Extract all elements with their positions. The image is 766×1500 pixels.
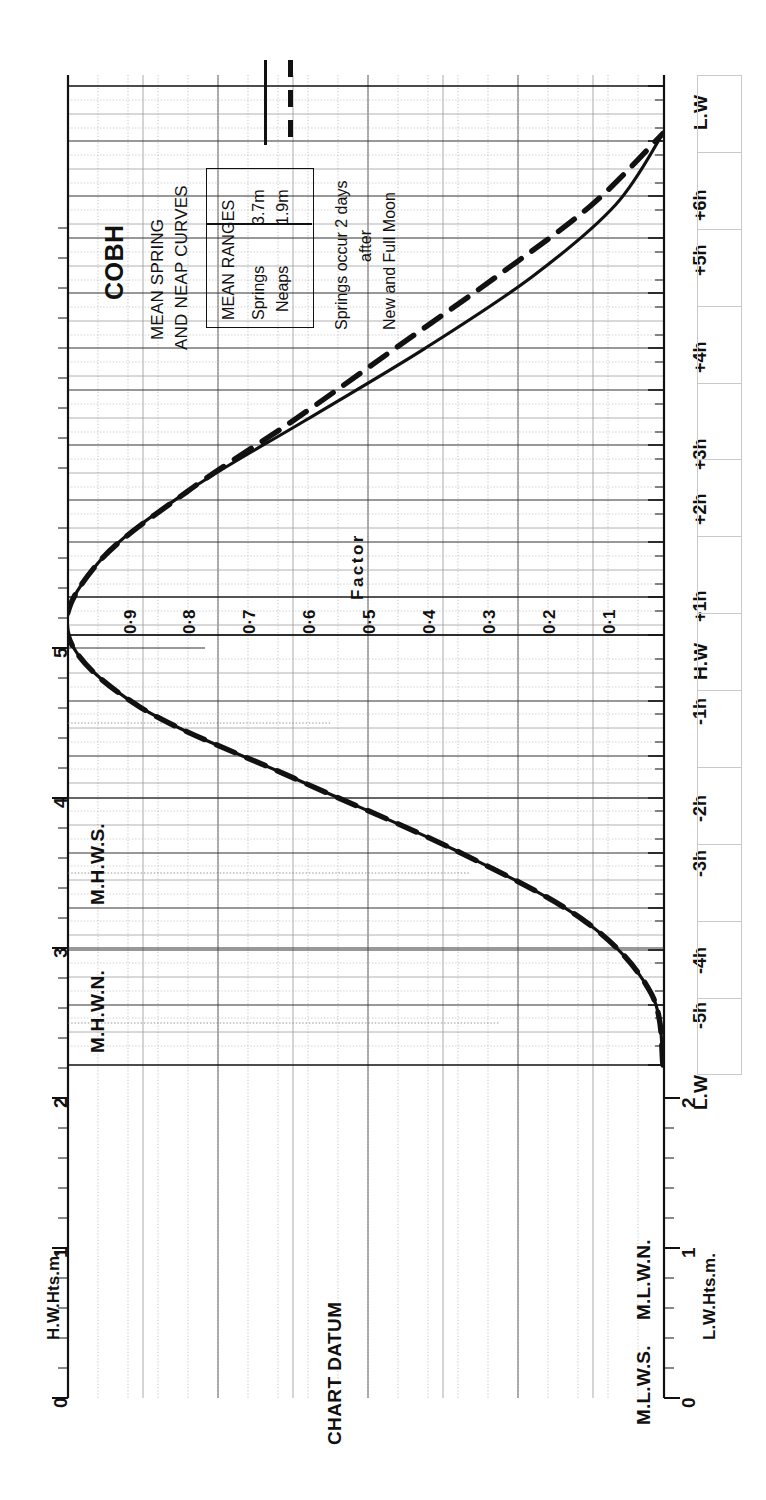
left-tick-3: 3 xyxy=(50,947,72,958)
factor-tick-0-9: 0·9 xyxy=(121,609,141,634)
left-axis-label: H.W.Hts.m. xyxy=(44,1251,64,1340)
level-label-mhws: M.H.W.S. xyxy=(87,823,109,905)
factor-tick-0-8: 0·8 xyxy=(180,609,200,634)
legend-note-line-1: Springs occur 2 days xyxy=(333,181,351,330)
time-axis-hour-ticks xyxy=(648,86,664,1065)
right-tick-1: 1 xyxy=(678,1247,700,1258)
level-marker-lines xyxy=(68,648,664,1023)
legend-sample-dashed xyxy=(288,60,293,145)
factor-axis-label: Factor xyxy=(348,533,368,600)
factor-tick-0-3: 0·3 xyxy=(480,609,500,634)
left-tick-4: 4 xyxy=(50,797,72,808)
left-axis-minor-ticks xyxy=(58,228,68,1398)
subtitle-line-1: MEAN SPRING xyxy=(148,219,168,340)
subtitle-line-2: AND NEAP CURVES xyxy=(172,185,192,350)
factor-tick-0-6: 0·6 xyxy=(300,609,320,634)
level-label-mlwn: M.L.W.N. xyxy=(633,1239,655,1320)
right-tick-2: 2 xyxy=(678,1097,700,1108)
factor-tick-0-2: 0·2 xyxy=(540,609,560,634)
factor-tick-0-4: 0·4 xyxy=(420,609,440,634)
right-axis-label: L.W.Hts.m. xyxy=(700,1253,720,1340)
left-tick-2: 2 xyxy=(50,1097,72,1108)
legend-row-1-label: Neaps xyxy=(274,266,292,312)
legend-row-0-value: 3.7m xyxy=(250,189,268,225)
tidal-curve-chart: COBH MEAN SPRING AND NEAP CURVES MEAN RA… xyxy=(0,0,766,1500)
right-tick-0: 0 xyxy=(678,1397,700,1408)
blank-entry-table[interactable] xyxy=(697,75,742,1075)
factor-tick-0-5: 0·5 xyxy=(360,609,380,634)
time-axis-ticks xyxy=(655,100,664,1046)
legend-header: MEAN RANGES xyxy=(220,200,238,320)
legend-sample-solid xyxy=(264,60,267,145)
legend-row-0-label: Springs xyxy=(250,266,268,320)
page-title: COBH xyxy=(100,224,129,300)
legend-note-line-3: New and Full Moon xyxy=(381,192,399,330)
level-label-mlws: M.L.W.S. xyxy=(633,1345,655,1425)
chart-datum-label: CHART DATUM xyxy=(324,1302,346,1445)
factor-tick-0-7: 0·7 xyxy=(240,609,260,634)
left-tick-5: 5 xyxy=(50,647,72,658)
legend-note-line-2: after xyxy=(357,230,375,262)
level-label-mhwn: M.H.W.N. xyxy=(87,970,109,1053)
legend-row-1-value: 1.9m xyxy=(274,189,292,225)
factor-tick-0-1: 0·1 xyxy=(600,609,620,634)
left-tick-0: 0 xyxy=(50,1397,72,1408)
